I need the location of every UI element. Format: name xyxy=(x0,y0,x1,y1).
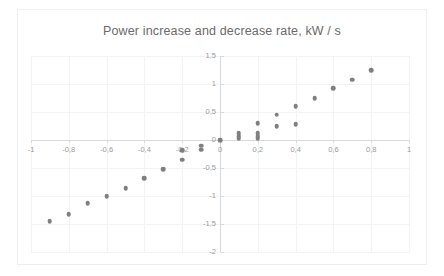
x-tick-label: 0,2 xyxy=(253,146,263,154)
x-tick-label: 0,8 xyxy=(366,146,376,154)
data-point xyxy=(161,167,166,172)
x-tick xyxy=(409,140,410,143)
x-tick-label: 0 xyxy=(218,146,222,154)
data-point xyxy=(48,219,53,224)
gridline-vertical xyxy=(371,56,372,252)
data-point xyxy=(180,148,185,153)
y-tick-label: -2 xyxy=(198,248,216,256)
gridline-vertical xyxy=(107,56,108,252)
x-tick-label: -1 xyxy=(28,146,35,154)
y-tick-label: -1 xyxy=(198,192,216,200)
chart-container: Power increase and decrease rate, kW / s… xyxy=(17,9,427,265)
x-tick xyxy=(107,140,108,143)
y-tick-label: 1 xyxy=(198,80,216,88)
data-point xyxy=(350,77,355,82)
data-point xyxy=(369,68,374,73)
y-tick-label: 1,5 xyxy=(198,52,216,60)
x-tick-label: -0,4 xyxy=(138,146,151,154)
x-tick xyxy=(31,140,32,143)
y-axis-line xyxy=(220,56,221,252)
data-point xyxy=(256,131,261,136)
y-tick xyxy=(221,168,224,169)
gridline-vertical xyxy=(182,56,183,252)
y-tick xyxy=(221,252,224,253)
data-point xyxy=(104,194,109,199)
x-tick xyxy=(69,140,70,143)
data-point xyxy=(180,157,185,162)
data-point xyxy=(142,176,147,181)
gridline-vertical xyxy=(31,56,32,252)
data-point xyxy=(331,86,336,91)
gridline-vertical xyxy=(409,56,410,252)
y-tick xyxy=(221,84,224,85)
y-tick xyxy=(221,56,224,57)
data-point xyxy=(237,131,242,136)
x-tick-label: 1 xyxy=(407,146,411,154)
y-tick-label: 0,5 xyxy=(198,108,216,116)
gridline-vertical xyxy=(69,56,70,252)
data-point xyxy=(218,138,223,143)
data-point xyxy=(312,96,317,101)
data-point xyxy=(199,147,204,152)
data-point xyxy=(85,201,90,206)
y-tick xyxy=(221,112,224,113)
data-point xyxy=(274,124,279,129)
x-tick-label: 0,4 xyxy=(290,146,300,154)
gridline-vertical xyxy=(296,56,297,252)
x-tick-label: -0,6 xyxy=(100,146,113,154)
gridline-vertical xyxy=(144,56,145,252)
x-tick-label: 0,6 xyxy=(328,146,338,154)
x-tick xyxy=(182,140,183,143)
data-point xyxy=(256,121,261,126)
x-tick xyxy=(371,140,372,143)
data-point xyxy=(293,122,298,127)
y-tick-label: -1,5 xyxy=(198,220,216,228)
data-point xyxy=(274,113,279,118)
y-tick xyxy=(221,224,224,225)
x-tick-label: -0,8 xyxy=(62,146,75,154)
x-tick xyxy=(333,140,334,143)
y-tick-label: -0,5 xyxy=(198,164,216,172)
x-tick xyxy=(144,140,145,143)
data-point xyxy=(123,186,128,191)
y-tick xyxy=(221,196,224,197)
chart-title: Power increase and decrease rate, kW / s xyxy=(18,24,426,38)
data-point xyxy=(67,212,72,217)
x-tick xyxy=(296,140,297,143)
gridline-vertical xyxy=(258,56,259,252)
gridline-horizontal xyxy=(31,252,409,253)
data-point xyxy=(293,104,298,109)
plot-area: -1-0,8-0,6-0,4-0,200,20,40,60,81 1,510,5… xyxy=(31,56,409,252)
